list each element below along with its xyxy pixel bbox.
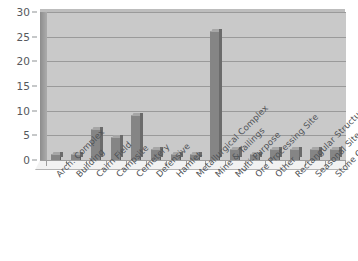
x-axis-category-label: Hamlet	[174, 172, 181, 179]
x-tick-mark	[225, 161, 226, 166]
bar-side-face	[319, 147, 322, 157]
bar[interactable]	[250, 154, 260, 160]
x-axis-ticks	[46, 161, 345, 167]
y-tick-mark	[32, 135, 37, 136]
x-axis-category-label: Stone Circle	[333, 172, 340, 179]
x-axis-category-label: Seasonal Site	[313, 172, 320, 179]
bar[interactable]	[51, 154, 61, 160]
y-tick-mark	[32, 36, 37, 37]
bar-slot	[186, 12, 206, 160]
bar-slot	[305, 12, 325, 160]
x-tick-mark	[66, 161, 67, 166]
x-tick-mark	[285, 161, 286, 166]
x-axis-category-label: Other	[273, 172, 280, 179]
bar-slot	[146, 12, 166, 160]
bar-series	[46, 12, 345, 160]
bar-slot	[265, 12, 285, 160]
x-tick-mark	[345, 161, 346, 166]
bar-slot	[205, 12, 225, 160]
bar-slot	[66, 12, 86, 160]
bar-side-face	[140, 113, 143, 157]
bar[interactable]	[330, 149, 340, 160]
bar-side-face	[180, 152, 183, 157]
y-tick-label: 5	[23, 129, 30, 141]
bar[interactable]	[270, 149, 280, 160]
bar-slot	[166, 12, 186, 160]
x-tick-mark	[265, 161, 266, 166]
bar[interactable]	[131, 115, 141, 160]
y-tick-mark	[32, 160, 37, 161]
bar-chart: 051015202530 Arch. ComplexBuildingCairn …	[0, 0, 358, 261]
bar[interactable]	[190, 154, 200, 160]
x-tick-mark	[106, 161, 107, 166]
bar-slot	[126, 12, 146, 160]
bar[interactable]	[91, 129, 101, 160]
bar-side-face	[80, 152, 83, 157]
x-tick-mark	[166, 161, 167, 166]
x-axis-category-label: Defensive	[154, 172, 161, 179]
bar-side-face	[120, 135, 123, 157]
x-tick-mark	[186, 161, 187, 166]
y-tick-label: 15	[16, 80, 30, 92]
y-tick-mark	[32, 110, 37, 111]
x-tick-mark	[86, 161, 87, 166]
bar[interactable]	[210, 31, 220, 160]
x-axis-category-label: Arch. Complex	[54, 172, 61, 179]
bar-side-face	[299, 147, 302, 157]
bar-side-face	[339, 147, 342, 157]
x-tick-mark	[305, 161, 306, 166]
bar[interactable]	[171, 154, 181, 160]
x-axis-category-label: Mine & Tailings	[213, 172, 220, 179]
bar-slot	[245, 12, 265, 160]
bar[interactable]	[230, 149, 240, 160]
bar-side-face	[279, 147, 282, 157]
bar[interactable]	[151, 149, 161, 160]
bar-slot	[46, 12, 66, 160]
bar-slot	[225, 12, 245, 160]
bar-slot	[285, 12, 305, 160]
bar[interactable]	[111, 137, 121, 160]
x-axis-category-label: Ore Processing Site	[253, 172, 260, 179]
x-tick-mark	[205, 161, 206, 166]
y-tick-label: 30	[16, 6, 30, 18]
x-tick-mark	[325, 161, 326, 166]
y-tick-mark	[32, 86, 37, 87]
bar[interactable]	[290, 149, 300, 160]
y-tick-label: 20	[16, 55, 30, 67]
x-axis-category-label: Cairn Field	[94, 172, 101, 179]
x-tick-mark	[46, 161, 47, 166]
y-tick-mark	[32, 61, 37, 62]
x-axis-category-label: Multi-Purpose	[233, 172, 240, 179]
bar-slot	[325, 12, 345, 160]
y-tick-label: 25	[16, 31, 30, 43]
x-axis-category-label: Metallurgical Complex	[194, 172, 201, 179]
bar-side-face	[60, 152, 63, 157]
y-axis: 051015202530	[0, 0, 40, 261]
x-axis-category-label: Campsite	[114, 172, 121, 179]
bar-side-face	[219, 29, 222, 157]
y-tick-label: 10	[16, 105, 30, 117]
bar-slot	[86, 12, 106, 160]
y-tick-mark	[32, 12, 37, 13]
x-axis-category-label: Building	[74, 172, 81, 179]
bar-side-face	[239, 147, 242, 157]
x-tick-mark	[245, 161, 246, 166]
bar-side-face	[100, 127, 103, 157]
y-tick-label: 0	[23, 154, 30, 166]
x-tick-mark	[146, 161, 147, 166]
bar[interactable]	[71, 154, 81, 160]
bar[interactable]	[310, 149, 320, 160]
bar-slot	[106, 12, 126, 160]
x-tick-mark	[126, 161, 127, 166]
bar-side-face	[160, 147, 163, 157]
x-axis-category-label: Cemetery	[134, 172, 141, 179]
bar-side-face	[259, 152, 262, 157]
x-axis-category-label: Rectangular Structure	[293, 172, 300, 179]
bar-side-face	[199, 152, 202, 157]
